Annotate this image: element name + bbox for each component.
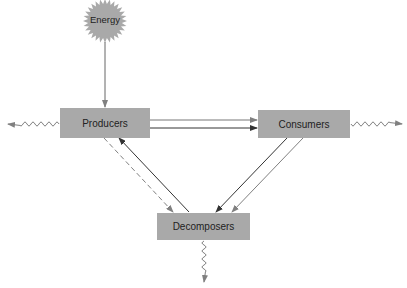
arrow-producers-to-decomposers-dashed [104, 138, 173, 212]
consumers-label: Consumers [278, 119, 329, 130]
heat-loss-arrow-producers [8, 122, 59, 126]
energy-label: Energy [75, 14, 135, 25]
heat-loss-arrow-consumers [351, 122, 402, 126]
producers-box: Producers [60, 108, 150, 138]
arrow-consumers-to-decomposers-1 [216, 138, 287, 212]
consumers-box: Consumers [258, 110, 350, 138]
arrow-decomposers-to-producers [119, 138, 189, 212]
heat-loss-arrow-decomposers [202, 241, 206, 282]
decomposers-box: Decomposers [157, 213, 250, 240]
arrow-consumers-to-decomposers-2 [232, 138, 303, 212]
producers-label: Producers [82, 118, 128, 129]
decomposers-label: Decomposers [173, 221, 235, 232]
ecosystem-diagram [0, 0, 407, 288]
